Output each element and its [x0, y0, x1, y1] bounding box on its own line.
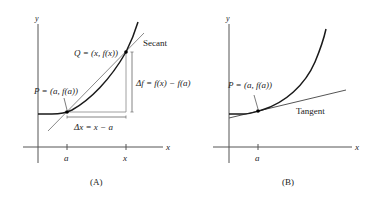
point-q: [124, 50, 128, 54]
tangent-label: Tangent: [296, 106, 325, 116]
secant-label: Secant: [143, 38, 167, 48]
panel-a-caption: (A): [90, 177, 103, 187]
p-leader-line: [64, 98, 67, 110]
tick-a-label: a: [64, 153, 69, 163]
point-p-label: P = (a, f(a)): [33, 86, 78, 96]
x-axis-label: x: [165, 142, 170, 152]
point-p-label: P = (a, f(a)): [227, 80, 272, 90]
x-axis-label: x: [354, 142, 359, 152]
p-leader-line: [254, 95, 258, 109]
function-curve: [38, 22, 138, 114]
panel-b-caption: (B): [282, 177, 294, 187]
diagram-canvas: y x a x Q = (x, f(x)) Secant P = (a, f(a…: [0, 0, 375, 199]
function-curve: [229, 29, 326, 114]
panel-b: y x a P = (a, f(a)) Tangent (B): [213, 14, 359, 187]
y-axis-label: y: [225, 14, 230, 23]
point-p: [256, 109, 260, 113]
panel-a: y x a x Q = (x, f(x)) Secant P = (a, f(a…: [23, 14, 190, 187]
point-p: [65, 110, 69, 114]
point-q-label: Q = (x, f(x)): [74, 48, 118, 58]
delta-x-label: Δx = x − a: [73, 122, 113, 132]
delta-f-label: Δf = f(x) − f(a): [135, 78, 190, 88]
y-axis-label: y: [34, 14, 39, 23]
tick-a-label: a: [255, 153, 260, 163]
tick-x-label: x: [122, 153, 127, 163]
